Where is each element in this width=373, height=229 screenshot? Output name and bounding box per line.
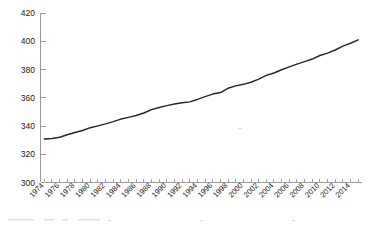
x-tick-label-group: 2006 xyxy=(272,181,290,199)
x-tick-label: 1998 xyxy=(211,181,229,199)
x-tick-label: 2012 xyxy=(318,181,336,199)
x-tick-label: 1984 xyxy=(104,181,122,199)
x-tick-label-group: 1998 xyxy=(211,181,229,199)
y-tick-label: 420 xyxy=(21,8,35,18)
y-tick-label: 380 xyxy=(21,65,35,75)
y-axis-ticks: 300320340360380400420 xyxy=(21,8,46,188)
x-tick-label-group: 1978 xyxy=(58,181,76,199)
x-tick-label: 1982 xyxy=(89,181,107,199)
x-tick-label-group: 1986 xyxy=(119,181,137,199)
x-tick-label: 1980 xyxy=(73,181,91,199)
x-tick-label-group: 1996 xyxy=(196,181,214,199)
x-tick-label-group: 2004 xyxy=(257,181,275,199)
x-tick-label: 1976 xyxy=(43,181,61,199)
x-tick-label: 1996 xyxy=(196,181,214,199)
x-axis-ticks xyxy=(44,179,358,183)
x-tick-label: 2002 xyxy=(242,181,260,199)
x-tick-label: 1978 xyxy=(58,181,76,199)
y-tick-label: 360 xyxy=(21,93,35,103)
x-tick-label-group: 1990 xyxy=(150,181,168,199)
x-tick-label-group: 1988 xyxy=(135,181,153,199)
y-tick-label: 400 xyxy=(21,36,35,46)
x-tick-label: 2008 xyxy=(288,181,306,199)
x-tick-label-group: 2008 xyxy=(288,181,306,199)
x-tick-label: 2004 xyxy=(257,181,275,199)
line-chart-plot: 300320340360380400420 197419761978198019… xyxy=(0,0,373,229)
x-tick-label-group: 2000 xyxy=(226,181,244,199)
x-tick-label: 2010 xyxy=(303,181,321,199)
x-tick-label-group: 1992 xyxy=(165,181,183,199)
y-tick-label: 320 xyxy=(21,149,35,159)
y-tick-label: 340 xyxy=(21,121,35,131)
x-tick-label-group: 2012 xyxy=(318,181,336,199)
x-tick-label: 2014 xyxy=(334,181,352,199)
x-tick-label: 1988 xyxy=(135,181,153,199)
data-series-line xyxy=(44,40,358,139)
x-tick-label: 1994 xyxy=(181,181,199,199)
x-tick-label: 2000 xyxy=(226,181,244,199)
x-axis-tick-labels: 1974197619781980198219841986198819901992… xyxy=(27,181,352,199)
x-tick-label: 1992 xyxy=(165,181,183,199)
x-tick-label-group: 1980 xyxy=(73,181,91,199)
x-tick-label-group: 1984 xyxy=(104,181,122,199)
x-tick-label-group: 2010 xyxy=(303,181,321,199)
x-tick-label-group: 2002 xyxy=(242,181,260,199)
x-tick-label-group: 1994 xyxy=(181,181,199,199)
x-tick-label-group: 2014 xyxy=(334,181,352,199)
x-tick-label: 1990 xyxy=(150,181,168,199)
x-tick-label: 1986 xyxy=(119,181,137,199)
x-tick-label: 2006 xyxy=(272,181,290,199)
x-tick-label-group: 1976 xyxy=(43,181,61,199)
chart-container: 300320340360380400420 197419761978198019… xyxy=(0,0,373,229)
scan-artifacts xyxy=(8,128,295,221)
x-tick-label-group: 1982 xyxy=(89,181,107,199)
